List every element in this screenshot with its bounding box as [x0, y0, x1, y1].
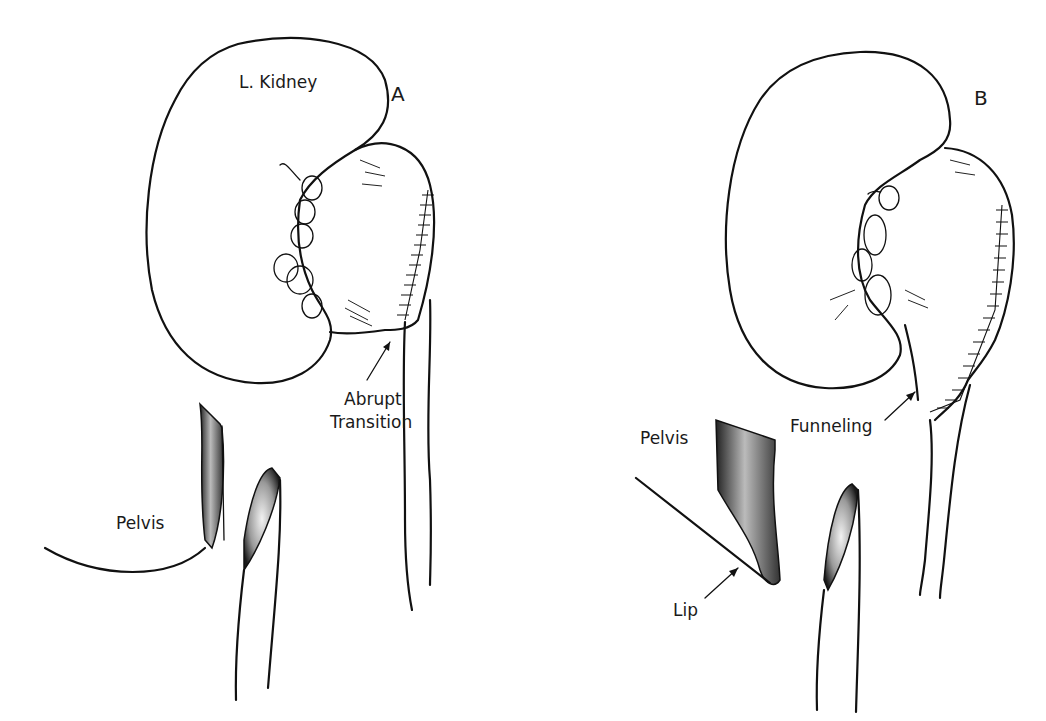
- illustration-drawing: [0, 0, 1046, 721]
- funneling-label: Funneling: [790, 416, 873, 436]
- suture-line-b: [930, 205, 1008, 412]
- pyeloplasty-illustration: L. Kidney A Abrupt Transition Pelvis B F…: [0, 0, 1046, 721]
- suture-line-a: [397, 190, 434, 320]
- pelvis-label-b: Pelvis: [640, 428, 688, 448]
- kidney-label: L. Kidney: [239, 72, 317, 92]
- ureter-b-right: [940, 385, 970, 598]
- panel-a-drawing: [45, 38, 434, 700]
- panel-letter-b: B: [974, 88, 988, 108]
- renal-pelvis-b: [935, 148, 1014, 420]
- renal-pelvis-a: [330, 143, 434, 333]
- ureter-b-left: [920, 420, 932, 595]
- ureter-a-right: [428, 300, 431, 585]
- pelvis-label-a: Pelvis: [116, 513, 164, 533]
- abrupt-transition-label-line2: Transition: [330, 412, 412, 432]
- ureter-a-left: [404, 322, 412, 610]
- kidney-outline-b: [726, 52, 950, 388]
- pelvis-section-a: [45, 404, 224, 572]
- abrupt-transition-label-line1: Abrupt: [344, 389, 402, 409]
- lip-label: Lip: [673, 600, 698, 620]
- ureter-section-a: [236, 468, 281, 700]
- ureter-section-b: [817, 484, 860, 712]
- panel-letter-a: A: [391, 84, 405, 104]
